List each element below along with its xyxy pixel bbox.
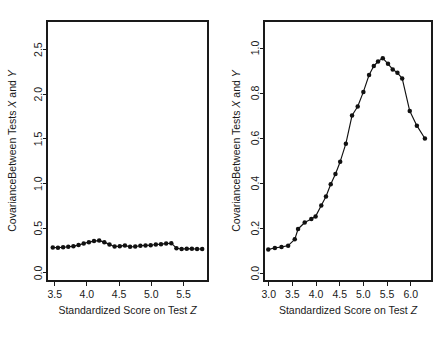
data-point	[293, 237, 298, 242]
data-point	[372, 64, 377, 69]
data-point	[408, 109, 413, 114]
data-point	[66, 245, 71, 250]
data-point	[112, 244, 117, 249]
data-point	[266, 247, 271, 252]
data-point	[333, 172, 338, 177]
x-tick-label: 4.0	[80, 288, 95, 300]
data-point	[390, 67, 395, 72]
data-point	[185, 246, 190, 251]
series-line	[268, 58, 425, 249]
data-point	[328, 182, 333, 187]
x-tick-label: 5.0	[144, 288, 159, 300]
x-tick-label: 5.5	[176, 288, 191, 300]
data-point	[309, 217, 314, 222]
y-tick-label: 0.6	[249, 131, 261, 146]
x-tick-label: 4.5	[112, 288, 127, 300]
data-point	[381, 56, 386, 61]
data-point	[400, 76, 405, 81]
data-point	[195, 247, 200, 252]
chart-panel-right: 3.03.54.04.55.05.56.00.00.20.40.60.81.0S…	[224, 0, 448, 337]
data-point	[367, 73, 372, 78]
data-point	[302, 220, 307, 225]
data-point	[273, 246, 278, 251]
y-tick-label: 0.2	[249, 221, 261, 236]
y-axis-title: CovarianceBetween Tests X and Y	[6, 69, 18, 232]
right-plot-svg: 3.03.54.04.55.05.56.00.00.20.40.60.81.0S…	[224, 0, 448, 337]
data-point	[324, 194, 329, 199]
data-point	[51, 245, 56, 250]
y-tick-label: 0.8	[249, 86, 261, 101]
y-tick-label: 1.0	[249, 41, 261, 56]
data-point	[138, 243, 143, 248]
x-axis-title-text: Standardized Score on Test	[58, 304, 190, 316]
data-point	[286, 243, 291, 248]
data-point	[143, 243, 148, 248]
data-point	[154, 242, 159, 247]
data-point	[376, 59, 381, 64]
plot-frame	[264, 21, 432, 281]
y-tick-label: 1.5	[32, 131, 44, 146]
data-point	[344, 141, 349, 146]
plot-frame	[47, 21, 208, 281]
data-point	[71, 244, 76, 249]
data-point	[279, 245, 284, 250]
data-point	[92, 239, 97, 244]
y-axis-title: CovarianceBetween Tests X and Y	[230, 69, 242, 232]
data-point	[123, 243, 128, 248]
data-point	[107, 242, 112, 247]
data-point	[81, 241, 86, 246]
x-tick-label: 4.0	[309, 288, 324, 300]
data-point	[395, 71, 400, 76]
data-point	[76, 243, 81, 248]
data-point	[164, 241, 169, 246]
figure-container: 3.54.04.55.05.50.00.51.01.52.02.5Standar…	[0, 0, 448, 337]
x-tick-label: 6.0	[403, 288, 418, 300]
data-point	[386, 62, 391, 67]
x-tick-label: 3.5	[47, 288, 62, 300]
y-tick-label: 0.5	[32, 221, 44, 236]
data-point	[118, 244, 123, 249]
data-point	[97, 238, 102, 243]
y-axis-title-symbol-y: Y	[230, 69, 242, 77]
data-point	[56, 245, 61, 250]
data-point	[148, 243, 153, 248]
data-point	[159, 242, 164, 247]
y-tick-label: 1.0	[32, 176, 44, 191]
x-tick-label: 3.5	[285, 288, 300, 300]
y-axis-title-text: CovarianceBetween Tests	[6, 108, 18, 232]
data-point	[350, 113, 355, 118]
y-axis-title-text-mid: and	[230, 77, 242, 100]
data-point	[179, 247, 184, 252]
data-point	[61, 245, 66, 250]
data-point	[200, 247, 205, 252]
x-tick-label: 3.0	[261, 288, 276, 300]
y-tick-label: 2.0	[32, 87, 44, 102]
x-axis-title: Standardized Score on Test Z	[279, 304, 418, 316]
data-point	[361, 90, 366, 95]
y-axis-title-text-mid: and	[6, 77, 18, 100]
x-axis-title: Standardized Score on Test Z	[58, 304, 197, 316]
x-axis-title-symbol: Z	[410, 304, 418, 316]
data-point	[423, 136, 428, 141]
data-point	[169, 241, 174, 246]
data-point	[87, 240, 92, 245]
y-axis-title-text: CovarianceBetween Tests	[230, 108, 242, 232]
x-tick-label: 5.0	[356, 288, 371, 300]
y-axis-title-symbol-y: Y	[6, 69, 18, 77]
data-point	[355, 104, 360, 109]
data-point	[296, 227, 301, 232]
y-tick-label: 0.4	[249, 176, 261, 191]
y-tick-label: 0.0	[32, 266, 44, 281]
chart-panel-left: 3.54.04.55.05.50.00.51.01.52.02.5Standar…	[0, 0, 224, 337]
data-point	[313, 214, 318, 219]
data-point	[190, 247, 195, 252]
data-point	[338, 159, 343, 164]
data-point	[174, 246, 179, 251]
x-tick-label: 5.5	[380, 288, 395, 300]
y-tick-label: 0.0	[249, 266, 261, 281]
data-point	[102, 240, 107, 245]
data-point	[415, 123, 420, 128]
x-axis-title-text: Standardized Score on Test	[279, 304, 411, 316]
data-point	[133, 244, 138, 249]
x-tick-label: 4.5	[332, 288, 347, 300]
